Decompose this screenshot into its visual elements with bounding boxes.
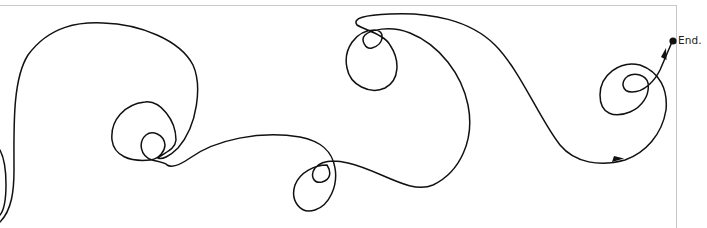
looping-path-diagram: [0, 0, 707, 228]
curve-path: [0, 14, 672, 222]
end-dot-icon: [669, 37, 676, 44]
arrowhead-icon: [661, 48, 667, 60]
end-label: End.: [678, 34, 702, 46]
